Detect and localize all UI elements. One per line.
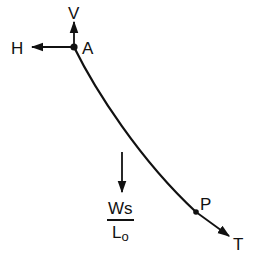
point-a-label: A (82, 40, 93, 57)
tension-label: T (233, 236, 243, 253)
point-p-label: P (200, 196, 211, 213)
vertical-force-label: V (68, 5, 79, 22)
point-a-dot (70, 43, 77, 50)
weight-per-length-label: Ws Lo (107, 200, 134, 243)
tension-force-arrow (196, 212, 229, 236)
weight-numerator: Ws (107, 200, 134, 221)
point-p-dot (193, 209, 199, 215)
denominator-subscript: o (121, 229, 128, 244)
horizontal-force-label: H (11, 40, 23, 57)
cable-curve (74, 47, 196, 212)
denominator-main: L (112, 223, 121, 242)
weight-denominator: Lo (107, 221, 134, 243)
